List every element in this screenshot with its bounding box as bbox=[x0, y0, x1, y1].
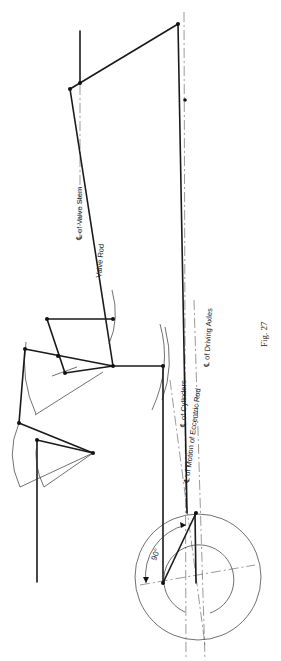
angle-label: 90° bbox=[149, 547, 162, 561]
joint bbox=[45, 317, 49, 321]
lower-linkage bbox=[12, 421, 95, 582]
guide-line bbox=[35, 372, 103, 415]
main-rod-lower bbox=[195, 513, 196, 583]
inner-arc bbox=[164, 545, 234, 613]
joint bbox=[63, 371, 67, 375]
driving-axles-label: ℄ of Driving Axles bbox=[202, 308, 214, 368]
arc bbox=[109, 290, 115, 344]
guide-line bbox=[44, 453, 93, 487]
arc bbox=[12, 423, 20, 487]
joint bbox=[35, 438, 39, 442]
joint bbox=[194, 511, 198, 515]
joint bbox=[111, 364, 115, 368]
rocker-link bbox=[70, 24, 178, 89]
valve-rod-label: Valve Rod bbox=[94, 243, 106, 278]
labels: ℄ of Valve Stem Valve Rod ℄ of Cylinders… bbox=[75, 187, 269, 562]
joint bbox=[176, 22, 180, 26]
cylinders-label: ℄ of Cylinders bbox=[179, 380, 188, 428]
guide-line bbox=[20, 453, 93, 487]
centerlines bbox=[80, 12, 255, 660]
top-linkage bbox=[68, 22, 187, 513]
joint bbox=[68, 87, 72, 91]
diagram-figure: ℄ of Valve Stem Valve Rod ℄ of Cylinders… bbox=[0, 0, 281, 661]
lower-lever bbox=[19, 423, 93, 453]
joint bbox=[161, 581, 165, 585]
joint bbox=[91, 451, 95, 455]
figure-caption: Fig. 27 bbox=[259, 321, 269, 347]
valve-stem-label: ℄ of Valve Stem bbox=[75, 187, 84, 241]
reverse-lever bbox=[19, 349, 25, 423]
lever bbox=[25, 349, 113, 366]
arrow-head-icon bbox=[143, 577, 149, 583]
arc bbox=[24, 342, 36, 414]
joint bbox=[78, 81, 82, 85]
joint bbox=[17, 421, 21, 425]
radius-link bbox=[47, 319, 65, 373]
valve-gear-diagram: ℄ of Valve Stem Valve Rod ℄ of Cylinders… bbox=[0, 0, 281, 661]
joint bbox=[111, 317, 115, 321]
wheel-circle bbox=[135, 514, 261, 640]
axle-horizontal-centerline bbox=[140, 565, 255, 585]
lever-lower bbox=[65, 366, 113, 373]
crank bbox=[163, 513, 196, 583]
arrow-head-icon bbox=[180, 522, 186, 528]
joint bbox=[56, 354, 60, 358]
main-rod bbox=[178, 24, 187, 513]
joint bbox=[183, 98, 187, 102]
middle-linkage bbox=[19, 290, 169, 423]
